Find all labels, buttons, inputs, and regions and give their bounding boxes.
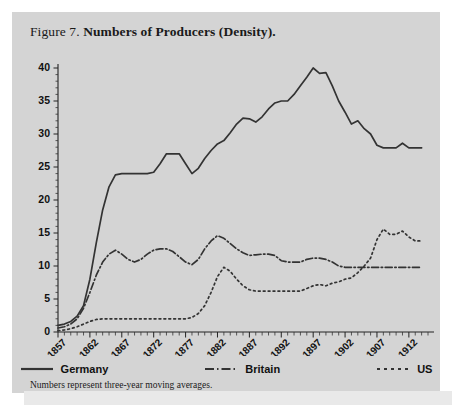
y-tick-label: 15: [38, 226, 50, 238]
series-line-britain: [58, 236, 422, 328]
y-tick-label: 10: [38, 259, 50, 271]
x-axis: 1857186218671872187718821887189218971902…: [45, 332, 434, 356]
figure-title-text: Numbers of Producers (Density).: [83, 24, 276, 39]
panel-footer-strip: [24, 391, 452, 405]
legend-label-germany: Germany: [61, 363, 109, 375]
y-tick-label: 30: [38, 127, 50, 139]
y-tick-label: 35: [38, 94, 50, 106]
chart-series-group: [58, 68, 422, 331]
figure-note: Numbers represent three-year moving aver…: [30, 380, 212, 390]
x-tick-label: 1912: [396, 336, 420, 356]
x-tick-label: 1867: [109, 336, 133, 356]
x-tick-label: 1857: [45, 336, 69, 356]
x-tick-label: 1897: [300, 336, 324, 356]
legend-item-britain: Britain: [204, 363, 280, 375]
x-tick-label: 1872: [141, 336, 165, 356]
x-tick-label: 1887: [236, 336, 260, 356]
legend-swatch-britain: [204, 364, 238, 374]
x-tick-label: 1882: [204, 336, 228, 356]
line-chart: 0510152025303540 18571862186718721877188…: [12, 48, 440, 356]
y-tick-label: 25: [38, 160, 50, 172]
y-tick-label: 40: [38, 61, 50, 73]
y-tick-label: 0: [44, 325, 50, 337]
y-tick-label: 20: [38, 193, 50, 205]
legend-item-germany: Germany: [20, 363, 109, 375]
legend-label-britain: Britain: [245, 363, 280, 375]
series-line-us: [58, 229, 422, 331]
legend-swatch-germany: [20, 364, 54, 374]
figure-title: Figure 7. Numbers of Producers (Density)…: [30, 24, 276, 40]
legend-swatch-us: [376, 364, 410, 374]
figure-number: Figure 7.: [30, 24, 80, 39]
legend-item-us: US: [376, 363, 432, 375]
y-axis: 0510152025303540: [38, 61, 58, 337]
x-tick-label: 1902: [332, 336, 356, 356]
y-tick-label: 5: [44, 292, 50, 304]
figure-panel: Figure 7. Numbers of Producers (Density)…: [12, 12, 440, 393]
chart-plot-area: 0510152025303540 18571862186718721877188…: [12, 48, 440, 356]
series-line-germany: [58, 68, 422, 325]
x-tick-label: 1862: [77, 336, 101, 356]
chart-legend: Germany Britain US: [12, 360, 440, 378]
legend-label-us: US: [417, 363, 432, 375]
x-tick-label: 1877: [172, 336, 196, 356]
x-tick-label: 1892: [268, 336, 292, 356]
x-tick-label: 1907: [364, 336, 388, 356]
